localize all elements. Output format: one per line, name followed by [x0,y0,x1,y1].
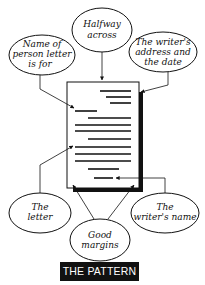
margins-line-1: Good [88,230,112,240]
address-line-3: the date [144,57,182,67]
halfway-line-1: Halfway [82,19,121,29]
letter-page [67,82,143,192]
letter-line-2: letter [27,212,53,222]
recipient-line-3: is for [28,59,52,69]
address-line-2: address and [135,47,191,57]
letter-pattern-diagram: Halfway across Name of person letter is … [0,0,205,285]
letter-line-1: The [31,202,48,212]
page-shadow-bottom [73,188,143,192]
margins-line-2: margins [81,240,119,250]
page-outline [67,82,139,188]
writer-name-line-1: The [156,202,173,212]
address-line-1: The writer's [135,37,191,47]
recipient-line-1: Name of [22,39,63,49]
diagram-title: THE PATTERN [60,262,139,281]
halfway-line-2: across [87,30,117,40]
writer-name-line-2: writer's name [133,212,196,222]
page-shadow-right [139,92,143,192]
connector-address [141,72,168,92]
recipient-line-2: person letter [12,49,72,59]
